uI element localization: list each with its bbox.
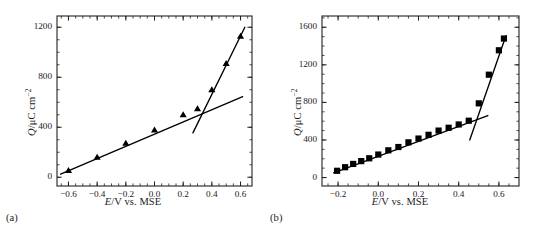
panel-a: Q/μC cm−2 E/V vs. MSE (a) −0.6−0.4−0.20.… — [0, 0, 266, 231]
x-tick-label: 0.4 — [439, 189, 479, 199]
data-point — [94, 154, 101, 160]
data-point — [385, 147, 391, 153]
y-tick-label: 800 — [288, 96, 317, 106]
data-point — [446, 125, 452, 131]
data-series-markers — [65, 33, 244, 173]
x-tick-label: 0.0 — [358, 189, 398, 199]
x-tick-label: 0.2 — [398, 189, 438, 199]
data-point — [151, 127, 158, 133]
data-point — [237, 33, 244, 39]
data-point — [334, 168, 340, 174]
data-point — [194, 105, 201, 111]
data-point — [180, 111, 187, 117]
data-point — [342, 164, 348, 170]
panel-a-label: (a) — [6, 212, 18, 223]
data-point — [405, 139, 411, 145]
data-point — [486, 72, 492, 78]
data-point — [375, 151, 381, 157]
data-point — [366, 155, 372, 161]
figure-two-panel-charge-potential: Q/μC cm−2 E/V vs. MSE (a) −0.6−0.4−0.20.… — [0, 0, 533, 231]
data-point — [456, 121, 462, 127]
y-tick-label: 1600 — [288, 21, 317, 31]
y-tick-label: 0 — [23, 171, 52, 181]
data-point — [395, 144, 401, 150]
data-point — [122, 140, 129, 146]
y-tick-label: 400 — [288, 134, 317, 144]
data-point — [358, 158, 364, 164]
y-tick-label: 1200 — [23, 21, 52, 31]
y-tick-label: 0 — [288, 172, 317, 182]
data-point — [476, 100, 482, 106]
y-tick-label: 1200 — [288, 59, 317, 69]
data-point — [496, 47, 502, 53]
data-point — [466, 118, 472, 124]
panel-b-label: (b) — [270, 212, 283, 223]
data-series-markers — [334, 35, 507, 173]
x-tick-label: 0.6 — [479, 189, 519, 199]
x-tick-label: −0.2 — [318, 189, 358, 199]
plot-frame — [322, 16, 519, 186]
fit-line-oxide-growth-fit — [193, 27, 245, 133]
x-tick-label: 0.6 — [221, 189, 261, 199]
data-point — [501, 35, 507, 41]
y-tick-label: 400 — [23, 121, 52, 131]
y-tick-label: 800 — [23, 71, 52, 81]
data-point — [350, 161, 356, 167]
panel-b: Q/μC cm−2 E/V vs. MSE (b) −0.20.00.20.40… — [266, 0, 533, 231]
data-point — [425, 132, 431, 138]
data-point — [435, 127, 441, 133]
data-point — [415, 135, 421, 141]
plot-frame — [57, 16, 252, 186]
fit-line-double-layer-fit — [61, 97, 243, 175]
